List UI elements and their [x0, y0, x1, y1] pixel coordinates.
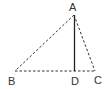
diagram-svg: A B D C [0, 0, 109, 89]
label-c: C [94, 74, 102, 86]
segment-ac [74, 15, 95, 71]
segment-ab [15, 15, 74, 71]
label-a: A [69, 1, 77, 13]
triangle-diagram: A B D C [0, 0, 109, 89]
label-b: B [8, 75, 15, 87]
label-d: D [71, 75, 79, 87]
